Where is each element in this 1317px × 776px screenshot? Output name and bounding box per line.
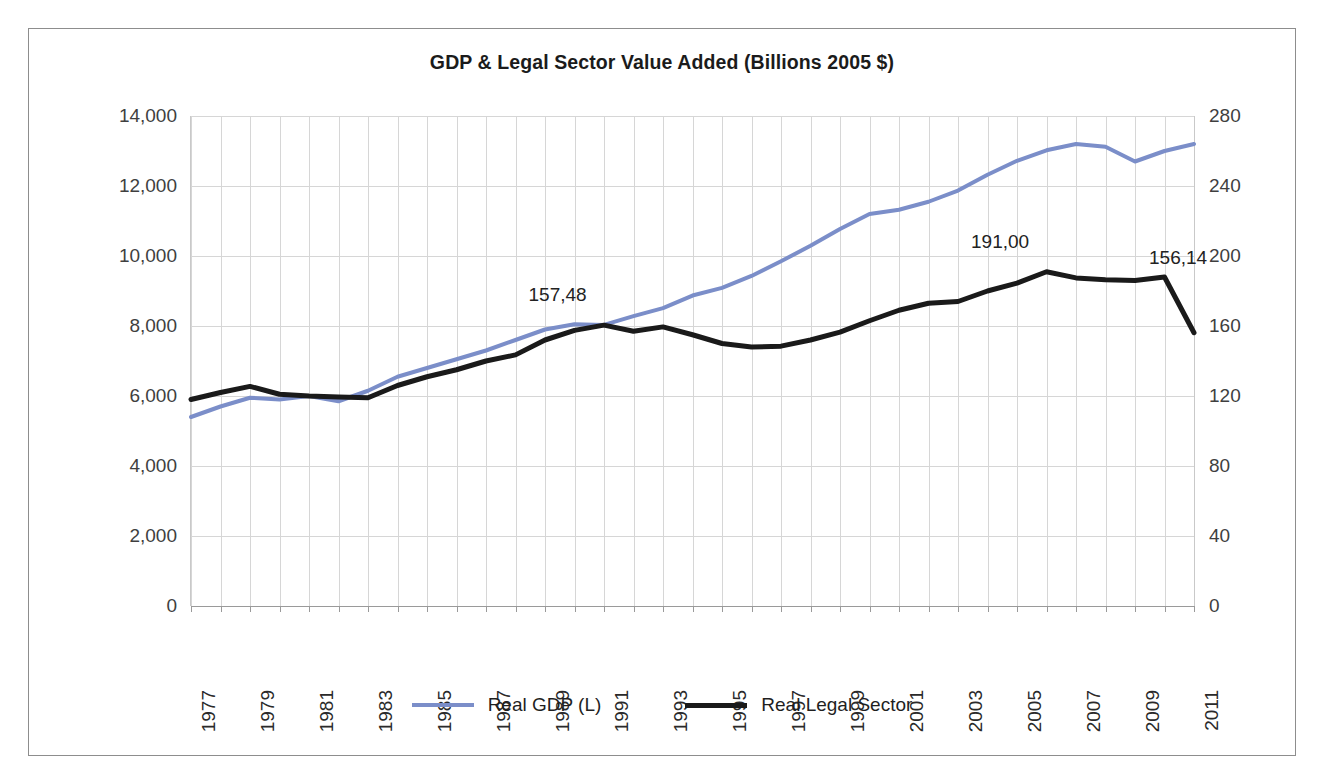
x-axis-tick-mark [604,606,605,612]
y-axis-left-tick: 12,000 [119,175,177,197]
chart-title: GDP & Legal Sector Value Added (Billions… [29,51,1295,74]
x-axis-tick-mark [693,606,694,612]
y-axis-left-tick: 6,000 [129,385,177,407]
y-axis-left-tick: 10,000 [119,245,177,267]
x-axis-tick-mark [309,606,310,612]
y-axis-left-labels: 02,0004,0006,0008,00010,00012,00014,000 [59,116,177,606]
x-axis-tick-mark [899,606,900,612]
y-axis-left-tick: 8,000 [129,315,177,337]
x-axis-tick-mark [545,606,546,612]
x-axis-tick-mark [457,606,458,612]
data-annotation: 157,48 [529,284,587,306]
y-axis-right-labels: 04080120160200240280 [1209,116,1299,606]
x-axis-tick-mark [339,606,340,612]
x-axis-tick-mark [398,606,399,612]
legend-label: Real Legal Sector [761,694,912,716]
x-axis-tick-mark [516,606,517,612]
x-axis-tick-mark [1165,606,1166,612]
x-axis-tick-mark [752,606,753,612]
y-axis-left-tick: 0 [166,595,177,617]
chart-frame: GDP & Legal Sector Value Added (Billions… [28,28,1296,756]
legend-item[interactable]: Real GDP (L) [412,694,602,716]
x-axis-tick-mark [722,606,723,612]
legend-swatch [412,703,474,707]
x-axis-tick-mark [250,606,251,612]
legend-label: Real GDP (L) [488,694,602,716]
y-axis-right-tick: 280 [1209,105,1241,127]
x-axis-tick-mark [221,606,222,612]
x-axis-tick-mark [486,606,487,612]
x-axis-tick-mark [427,606,428,612]
y-axis-right-tick: 200 [1209,245,1241,267]
series-lines [191,116,1194,606]
y-axis-left-tick: 4,000 [129,455,177,477]
x-axis-tick-mark [191,606,192,612]
x-axis-tick-mark [958,606,959,612]
y-axis-right-tick: 240 [1209,175,1241,197]
x-axis-tick-mark [634,606,635,612]
x-axis-tick-mark [368,606,369,612]
y-axis-right-tick: 120 [1209,385,1241,407]
series-line-real-legal-sector [191,272,1194,400]
y-axis-right-line [1194,116,1195,606]
plot-area: 157,48191,00156,14 [191,116,1194,606]
x-axis-tick-mark [1076,606,1077,612]
legend-swatch [685,703,747,708]
x-axis-tick-mark [280,606,281,612]
y-axis-left-tick: 14,000 [119,105,177,127]
series-line-real-gdp-l [191,144,1194,417]
x-axis-tick-mark [988,606,989,612]
legend-item[interactable]: Real Legal Sector [685,694,912,716]
y-axis-left-tick: 2,000 [129,525,177,547]
x-axis-tick-mark [1017,606,1018,612]
x-axis-tick-mark [1047,606,1048,612]
y-axis-right-tick: 40 [1209,525,1230,547]
x-axis-tick-mark [1135,606,1136,612]
x-axis-tick-mark [870,606,871,612]
x-axis-tick-mark [929,606,930,612]
x-axis-tick-mark [1194,606,1195,612]
x-axis-tick-mark [575,606,576,612]
data-annotation: 191,00 [971,231,1029,253]
x-axis-tick-mark [781,606,782,612]
x-axis-tick-mark [1106,606,1107,612]
chart-legend: Real GDP (L)Real Legal Sector [29,694,1295,716]
x-axis-tick-mark [663,606,664,612]
x-axis-tick-mark [811,606,812,612]
data-annotation: 156,14 [1149,247,1207,269]
y-axis-right-tick: 160 [1209,315,1241,337]
x-axis-tick-mark [840,606,841,612]
y-axis-right-tick: 0 [1209,595,1220,617]
y-axis-right-tick: 80 [1209,455,1230,477]
